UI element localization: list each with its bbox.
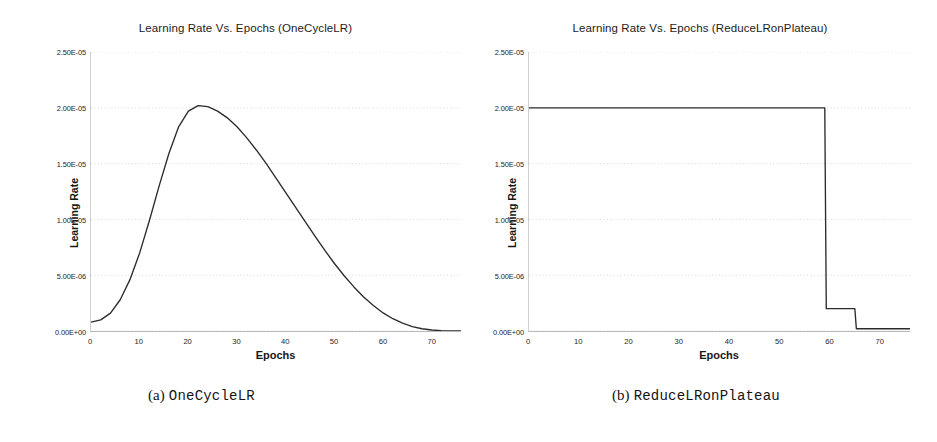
y-axis-label-b: Learning Rate <box>506 178 518 248</box>
plot-area-b <box>528 52 910 332</box>
x-axis-tick-label: 0 <box>76 337 104 346</box>
y-axis-tick-label: 0.00E+00 <box>44 328 86 337</box>
x-axis-tick-label: 50 <box>320 337 348 346</box>
x-axis-tick-label: 20 <box>615 337 643 346</box>
y-axis-tick-label: 1.50E-05 <box>44 160 86 169</box>
x-axis-tick-label: 10 <box>564 337 592 346</box>
x-axis-label-a: Epochs <box>90 349 461 361</box>
caption-name-b: ReduceLRonPlateau <box>634 388 780 404</box>
x-axis-tick-label: 30 <box>665 337 693 346</box>
x-axis-label-b: Epochs <box>528 349 910 361</box>
x-axis-tick-label: 60 <box>816 337 844 346</box>
plot-area-a <box>90 52 461 332</box>
y-axis-tick-label: 1.00E-05 <box>44 216 86 225</box>
x-axis-tick-label: 0 <box>514 337 542 346</box>
chart-title-a: Learning Rate Vs. Epochs (OneCycleLR) <box>18 22 473 34</box>
y-axis-tick-label: 2.50E-05 <box>44 48 86 57</box>
x-axis-tick-label: 40 <box>715 337 743 346</box>
y-axis-tick-label: 2.00E-05 <box>44 104 86 113</box>
data-series-line <box>529 108 910 329</box>
y-axis-tick-label: 1.50E-05 <box>482 160 524 169</box>
chart-panel-onecyclelr: Learning Rate Vs. Epochs (OneCycleLR) Le… <box>18 0 473 372</box>
y-axis-label-a: Learning Rate <box>68 178 80 248</box>
caption-name-a: OneCycleLR <box>169 388 255 404</box>
chart-title-b: Learning Rate Vs. Epochs (ReduceLRonPlat… <box>470 22 930 34</box>
x-axis-tick-label: 60 <box>369 337 397 346</box>
y-axis-tick-label: 5.00E-06 <box>44 272 86 281</box>
y-axis-tick-label: 2.50E-05 <box>482 48 524 57</box>
chart-panel-reducelronplateau: Learning Rate Vs. Epochs (ReduceLRonPlat… <box>470 0 930 372</box>
x-axis-tick-label: 70 <box>866 337 894 346</box>
y-axis-tick-label: 1.00E-05 <box>482 216 524 225</box>
y-axis-tick-label: 0.00E+00 <box>482 328 524 337</box>
x-axis-tick-label: 70 <box>418 337 446 346</box>
subfigure-caption-b: (b) ReduceLRonPlateau <box>612 386 780 404</box>
y-axis-tick-label: 2.00E-05 <box>482 104 524 113</box>
x-axis-tick-label: 50 <box>765 337 793 346</box>
caption-marker-a: (a) <box>148 387 165 403</box>
x-axis-tick-label: 20 <box>174 337 202 346</box>
figure-container: Learning Rate Vs. Epochs (OneCycleLR) Le… <box>0 0 937 442</box>
data-series-line <box>91 106 461 331</box>
x-axis-tick-label: 40 <box>271 337 299 346</box>
x-axis-tick-label: 10 <box>125 337 153 346</box>
y-axis-tick-label: 5.00E-06 <box>482 272 524 281</box>
x-axis-tick-label: 30 <box>222 337 250 346</box>
caption-marker-b: (b) <box>612 387 630 403</box>
subfigure-caption-a: (a) OneCycleLR <box>148 386 255 404</box>
